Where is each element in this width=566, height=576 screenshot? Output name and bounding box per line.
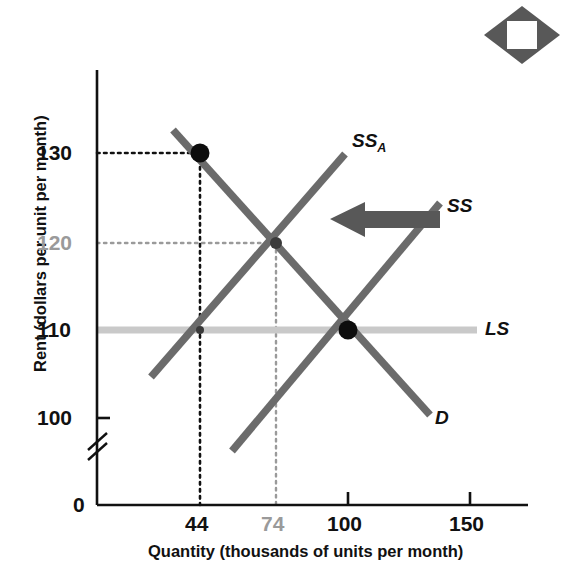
curve-label-SS-A-subscript: A [377, 141, 386, 155]
curve-SS-A [151, 154, 345, 377]
x-tick-label-100: 100 [327, 513, 362, 534]
y-tick-label-100: 100 [37, 407, 72, 428]
curve-label-LS: LS [485, 319, 509, 338]
y-tick-label-0: 0 [73, 494, 85, 515]
curve-label-D: D [435, 408, 449, 427]
marker-point-44-110 [196, 326, 204, 334]
marker-point-74-120 [270, 237, 282, 249]
diamond-square-icon [484, 6, 560, 64]
marker-point-44-130 [191, 144, 210, 163]
x-axis-title: Quantity (thousands of units per month) [148, 543, 463, 560]
curve-label-SS-A-text: SS [352, 130, 377, 151]
supply-shift-arrow [330, 202, 440, 237]
x-tick-label-74: 74 [261, 513, 284, 534]
curve-label-SS: SS [447, 196, 472, 215]
x-tick-label-44: 44 [185, 513, 208, 534]
rent-control-supply-demand-chart [0, 0, 566, 576]
y-tick-label-130: 130 [37, 142, 72, 163]
y-tick-label-120: 120 [37, 232, 72, 253]
curve-label-SS-A: SSA [352, 131, 386, 154]
y-tick-label-110: 110 [37, 319, 71, 340]
x-tick-label-150: 150 [449, 513, 484, 534]
marker-point-100-110 [339, 321, 358, 340]
